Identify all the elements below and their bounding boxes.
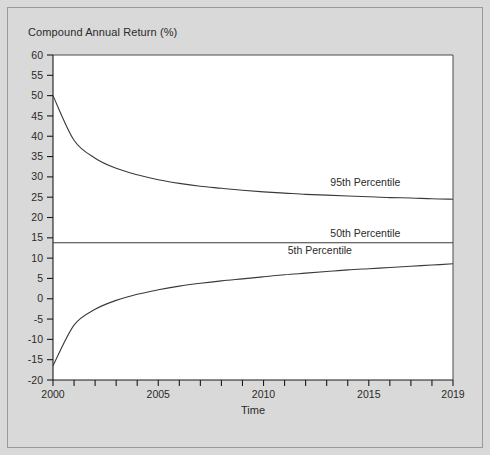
y-tick-label: -20	[28, 374, 43, 386]
y-tick-label: 5	[37, 272, 43, 284]
y-tick-label: 0	[37, 292, 43, 304]
y-tick-label: 10	[31, 252, 43, 264]
y-tick-label: 15	[31, 231, 43, 243]
x-tick-label: 2000	[41, 388, 65, 400]
series-label: 5th Percentile	[288, 244, 352, 256]
series-label: 50th Percentile	[330, 227, 400, 239]
y-tick-label: -5	[34, 313, 43, 325]
x-tick-label: 2019	[441, 388, 465, 400]
series-label: 95th Percentile	[330, 176, 400, 188]
y-tick-label: 60	[31, 49, 43, 61]
y-tick-label: 55	[31, 69, 43, 81]
y-axis-ticks	[47, 55, 53, 380]
y-tick-label: 50	[31, 89, 43, 101]
x-axis-label: Time	[241, 404, 265, 416]
y-tick-label: 40	[31, 130, 43, 142]
x-tick-label: 2015	[357, 388, 381, 400]
x-axis-ticks	[53, 380, 453, 386]
y-tick-label: 45	[31, 110, 43, 122]
chart-figure: Compound Annual Return (%) 6055504540353…	[0, 0, 490, 455]
y-tick-label: 25	[31, 191, 43, 203]
x-tick-label: 2005	[147, 388, 171, 400]
y-tick-label: -10	[28, 333, 43, 345]
x-tick-label: 2010	[252, 388, 276, 400]
y-tick-label: 20	[31, 211, 43, 223]
plot-area-background	[53, 55, 453, 380]
y-axis-tick-labels: 605550454035302520151050-5-10-15-20	[28, 49, 43, 386]
plot-canvas: 605550454035302520151050-5-10-15-20 2000…	[0, 0, 490, 455]
y-tick-label: 35	[31, 150, 43, 162]
x-axis-tick-labels: 20002005201020152019	[41, 388, 465, 400]
y-tick-label: 30	[31, 170, 43, 182]
y-tick-label: -15	[28, 353, 43, 365]
